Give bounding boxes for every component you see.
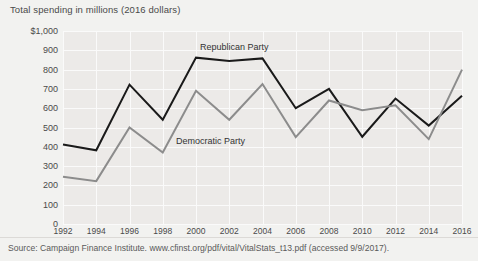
x-axis-tick-label: 1992 <box>54 226 73 236</box>
chart-container: Total spending in millions (2016 dollars… <box>0 0 478 261</box>
x-axis-tick-label: 2002 <box>220 226 239 236</box>
chart-axis-title: Total spending in millions (2016 dollars… <box>10 4 180 15</box>
source-note: Source: Campaign Finance Institute. www.… <box>8 243 389 253</box>
x-axis-tick-label: 2012 <box>386 226 405 236</box>
x-axis-tick-label: 2016 <box>453 226 472 236</box>
y-axis-tick-label: 700 <box>43 84 58 94</box>
y-axis-tick-label: 600 <box>43 103 58 113</box>
series-label-democratic: Democratic Party <box>176 136 245 146</box>
y-axis-tick-label: $1,000 <box>30 26 58 36</box>
y-axis-labels: $1,0009008007006005004003002001000 <box>0 31 58 224</box>
y-axis-tick-label: 300 <box>43 161 58 171</box>
x-axis-tick-label: 2010 <box>353 226 372 236</box>
x-axis-tick-label: 2000 <box>187 226 206 236</box>
x-axis-tick-label: 2006 <box>286 226 305 236</box>
x-axis-tick-label: 2008 <box>320 226 339 236</box>
y-axis-tick-label: 900 <box>43 45 58 55</box>
series-label-republican: Republican Party <box>200 42 269 52</box>
x-axis-tick-label: 2004 <box>253 226 272 236</box>
gridline-vertical <box>462 31 463 224</box>
y-axis-tick-label: 400 <box>43 142 58 152</box>
line-series-democratic-party <box>63 70 462 182</box>
x-axis-tick-label: 1998 <box>153 226 172 236</box>
y-axis-tick-label: 100 <box>43 200 58 210</box>
x-axis-tick-label: 1996 <box>120 226 139 236</box>
x-axis-tick-label: 2014 <box>419 226 438 236</box>
footer-divider <box>0 237 478 238</box>
series-lines <box>63 31 462 224</box>
gridline-horizontal <box>63 224 462 225</box>
x-axis-tick-label: 1994 <box>87 226 106 236</box>
y-axis-tick-label: 200 <box>43 180 58 190</box>
y-axis-tick-label: 500 <box>43 123 58 133</box>
y-axis-tick-label: 800 <box>43 65 58 75</box>
